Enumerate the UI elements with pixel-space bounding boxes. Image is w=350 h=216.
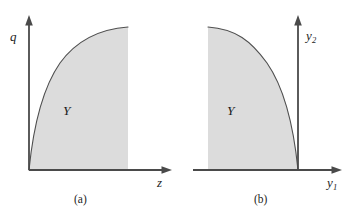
panel-b-horizontal-axis-label: y1	[327, 176, 337, 189]
panel-b-caption: (b)	[254, 194, 267, 206]
panel-b-vertical-axis-arrowhead	[294, 15, 302, 26]
figure-container: q z Y (a) y2 y1 Y (b)	[0, 0, 350, 216]
figure-canvas	[0, 0, 350, 216]
panel-a-vertical-axis-label: q	[10, 30, 17, 43]
panel-a-vertical-axis-arrowhead	[25, 15, 33, 26]
panel-a-shaded-region	[29, 27, 128, 170]
panel-a-region-label: Y	[63, 104, 71, 118]
panel-b-vertical-axis-label-base: y	[306, 28, 312, 43]
panel-b-graphics	[193, 15, 342, 174]
panel-a-caption: (a)	[74, 194, 87, 206]
panel-b-horizontal-axis-label-base: y	[327, 175, 333, 190]
panel-a-horizontal-axis-arrowhead	[162, 166, 173, 174]
panel-b-vertical-axis-label-subscript: 2	[312, 35, 316, 45]
panel-b-horizontal-axis-label-subscript: 1	[333, 182, 337, 192]
panel-b-region-label: Y	[227, 104, 235, 118]
panel-a-horizontal-axis-label: z	[157, 176, 162, 189]
panel-b-vertical-axis-label: y2	[306, 29, 316, 42]
panel-a-graphics	[25, 15, 172, 174]
panel-b-horizontal-axis-arrowhead	[332, 166, 343, 174]
